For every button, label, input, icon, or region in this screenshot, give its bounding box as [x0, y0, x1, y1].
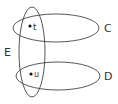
set-e-label: E [4, 46, 11, 59]
venn-diagram: C D E t u [0, 0, 118, 104]
point-u-dot [29, 72, 32, 75]
set-d-label: D [104, 70, 112, 83]
point-u-label: u [34, 70, 39, 79]
set-c-ellipse [13, 14, 99, 42]
set-d-ellipse [16, 62, 100, 90]
point-t-dot [28, 24, 31, 27]
point-t-label: t [33, 22, 37, 32]
set-c-label: C [104, 22, 112, 35]
set-e-ellipse [19, 7, 45, 97]
